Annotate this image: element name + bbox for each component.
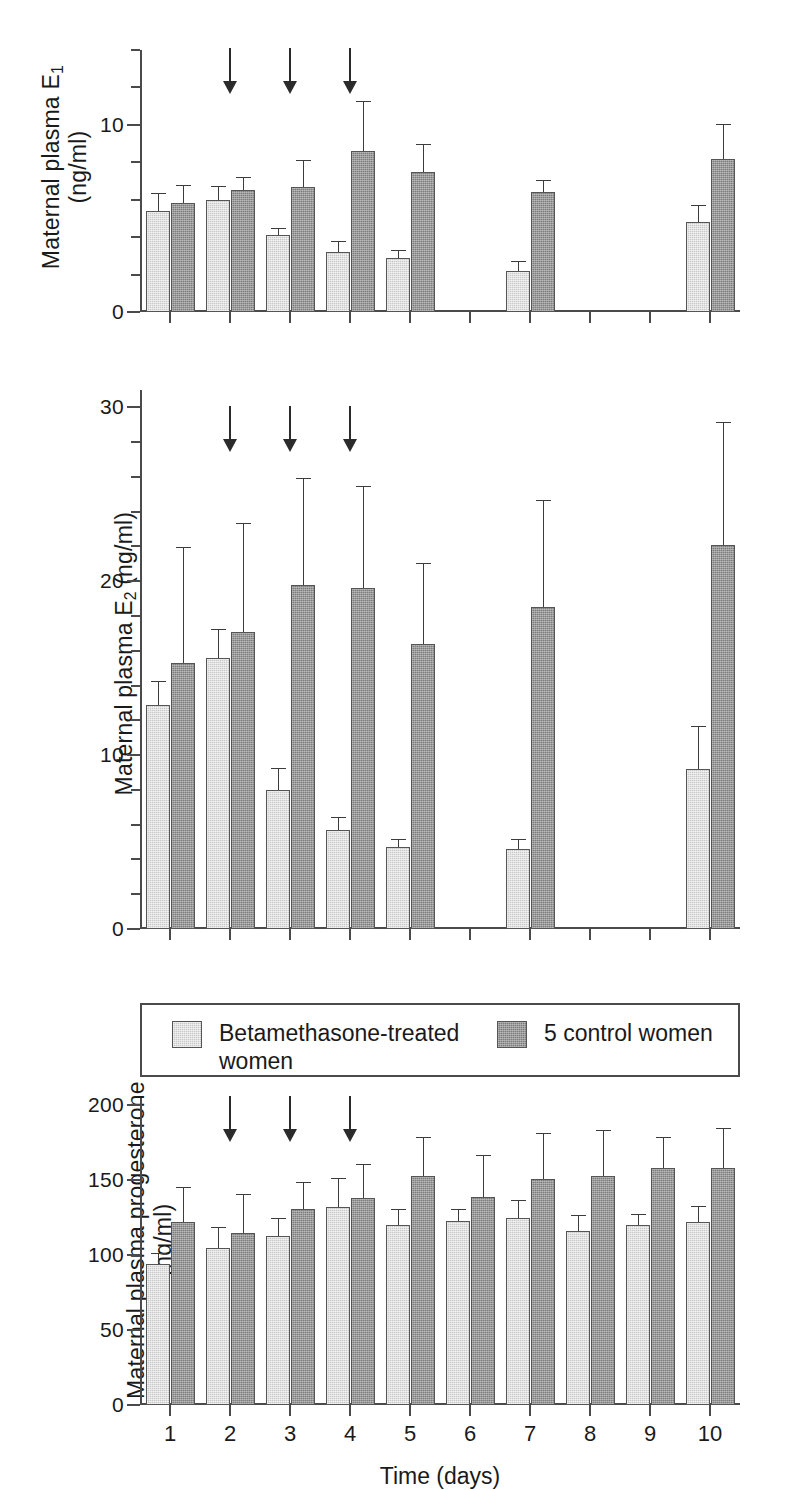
bar-panel-e2-treated-day-3 — [266, 790, 290, 929]
bar-panel-e1-treated-day-4 — [326, 252, 350, 312]
error-bar-panel-e2-control-day-3 — [303, 479, 304, 585]
bar-panel-e2-control-day-5 — [411, 644, 435, 929]
y-tick-panel-progesterone-150 — [127, 1179, 140, 1181]
error-bar-panel-e1-control-day-7 — [543, 181, 544, 192]
error-bar-panel-progesterone-treated-day-1 — [158, 1254, 159, 1264]
x-tick-panel-e1-day-6 — [469, 312, 471, 323]
y-tick-panel-e1-6 — [131, 199, 140, 201]
x-tick-panel-e2-day-7 — [529, 929, 531, 940]
y-tick-label-panel-progesterone-50: 50 — [100, 1318, 124, 1342]
error-cap-panel-e2-treated-day-5 — [391, 839, 406, 840]
error-bar-panel-e1-treated-day-2 — [218, 187, 219, 200]
error-cap-panel-progesterone-control-day-2 — [236, 1194, 251, 1195]
y-tick-panel-e2-10 — [127, 754, 140, 756]
error-cap-panel-e1-control-day-3 — [296, 160, 311, 161]
bar-panel-progesterone-treated-day-8 — [566, 1231, 590, 1405]
y-tick-label-panel-e2-20: 20 — [100, 569, 124, 593]
x-tick-panel-e1-day-5 — [409, 312, 411, 323]
x-tick-panel-e1-day-3 — [289, 312, 291, 323]
x-tick-panel-e2-day-4 — [349, 929, 351, 940]
x-tick-panel-progesterone-day-2 — [229, 1405, 231, 1416]
legend-item-control: 5 control women — [497, 1019, 737, 1048]
y-axis-progesterone — [140, 1098, 142, 1405]
y-tick-panel-e1-4 — [131, 236, 140, 238]
error-cap-panel-e2-treated-day-10 — [691, 726, 706, 727]
error-cap-panel-progesterone-control-day-1 — [176, 1187, 191, 1188]
error-cap-panel-progesterone-control-day-5 — [416, 1137, 431, 1138]
treatment-arrow-icon-day-2 — [220, 1096, 240, 1142]
bar-panel-progesterone-control-day-3 — [291, 1209, 315, 1405]
legend-box: Betamethasone-treated women 5 control wo… — [140, 1003, 740, 1077]
treatment-arrow-icon-day-4 — [340, 48, 360, 94]
x-tick-panel-e1-day-9 — [649, 312, 651, 323]
y-tick-panel-progesterone-100 — [127, 1254, 140, 1256]
x-tick-label-day-10: 10 — [698, 1421, 722, 1447]
arrow-head — [283, 439, 297, 452]
error-bar-panel-progesterone-control-day-3 — [303, 1183, 304, 1208]
y-tick-panel-e2-14 — [131, 685, 140, 687]
error-cap-panel-e1-treated-day-4 — [331, 241, 346, 242]
bar-panel-progesterone-treated-day-10 — [686, 1222, 710, 1405]
error-bar-panel-progesterone-treated-day-4 — [338, 1179, 339, 1207]
x-tick-label-day-6: 6 — [464, 1421, 476, 1447]
error-cap-panel-progesterone-control-day-3 — [296, 1182, 311, 1183]
error-cap-panel-progesterone-treated-day-10 — [691, 1206, 706, 1207]
x-tick-panel-e2-day-3 — [289, 929, 291, 940]
bar-panel-e1-control-day-5 — [411, 172, 435, 312]
x-tick-label-day-1: 1 — [164, 1421, 176, 1447]
x-tick-panel-e1-day-1 — [169, 312, 171, 323]
error-bar-panel-progesterone-treated-day-10 — [698, 1207, 699, 1222]
x-tick-panel-e2-day-9 — [649, 929, 651, 940]
x-tick-panel-e2-day-1 — [169, 929, 171, 940]
error-bar-panel-e2-treated-day-5 — [398, 840, 399, 847]
y-tick-panel-e2-0 — [127, 928, 140, 930]
error-cap-panel-progesterone-treated-day-7 — [511, 1200, 526, 1201]
error-cap-panel-e1-control-day-10 — [716, 124, 731, 125]
error-cap-panel-progesterone-treated-day-8 — [571, 1215, 586, 1216]
plot-area-e2: 0102030 — [140, 390, 740, 929]
x-tick-panel-progesterone-day-3 — [289, 1405, 291, 1416]
legend-label-control: 5 control women — [544, 1019, 713, 1047]
error-cap-panel-progesterone-control-day-6 — [476, 1155, 491, 1156]
error-cap-panel-e2-control-day-7 — [536, 500, 551, 501]
x-tick-panel-e2-day-6 — [469, 929, 471, 940]
arrow-shaft — [289, 406, 291, 439]
arrow-head — [343, 1129, 357, 1142]
x-tick-panel-e1-day-4 — [349, 312, 351, 323]
y-tick-panel-e1-10 — [127, 124, 140, 126]
error-bar-panel-e1-control-day-3 — [303, 161, 304, 186]
bar-panel-progesterone-control-day-5 — [411, 1176, 435, 1405]
bar-panel-e2-treated-day-1 — [146, 705, 170, 929]
error-bar-panel-e2-treated-day-1 — [158, 682, 159, 705]
x-tick-label-day-4: 4 — [344, 1421, 356, 1447]
y-tick-panel-e1-2 — [131, 274, 140, 276]
x-tick-panel-progesterone-day-1 — [169, 1405, 171, 1416]
treatment-arrow-icon-day-2 — [220, 406, 240, 452]
y-tick-label-panel-e2-0: 0 — [112, 917, 124, 941]
error-bar-panel-e1-control-day-10 — [723, 125, 724, 159]
bar-panel-e1-control-day-7 — [531, 192, 555, 312]
y-tick-panel-progesterone-200 — [127, 1104, 140, 1106]
error-bar-panel-e2-treated-day-2 — [218, 630, 219, 658]
bar-panel-progesterone-control-day-2 — [231, 1233, 255, 1405]
error-cap-panel-e1-control-day-5 — [416, 144, 431, 145]
error-cap-panel-progesterone-control-day-9 — [656, 1137, 671, 1138]
error-cap-panel-progesterone-treated-day-5 — [391, 1209, 406, 1210]
arrow-shaft — [289, 48, 291, 81]
bar-panel-e2-treated-day-2 — [206, 658, 230, 929]
x-tick-panel-e2-day-5 — [409, 929, 411, 940]
bar-panel-e2-treated-day-7 — [506, 849, 530, 929]
arrow-head — [223, 439, 237, 452]
error-cap-panel-e1-control-day-4 — [356, 101, 371, 102]
x-tick-panel-e1-day-10 — [709, 312, 711, 323]
error-cap-panel-e2-treated-day-2 — [211, 629, 226, 630]
bar-panel-progesterone-control-day-10 — [711, 1168, 735, 1405]
x-tick-label-day-9: 9 — [644, 1421, 656, 1447]
error-bar-panel-progesterone-treated-day-8 — [578, 1216, 579, 1231]
x-tick-panel-progesterone-day-10 — [709, 1405, 711, 1416]
error-cap-panel-progesterone-control-day-7 — [536, 1133, 551, 1134]
bar-panel-e1-treated-day-5 — [386, 258, 410, 312]
x-tick-panel-progesterone-day-9 — [649, 1405, 651, 1416]
y-axis-e1 — [140, 50, 142, 312]
bar-panel-e2-control-day-4 — [351, 588, 375, 929]
